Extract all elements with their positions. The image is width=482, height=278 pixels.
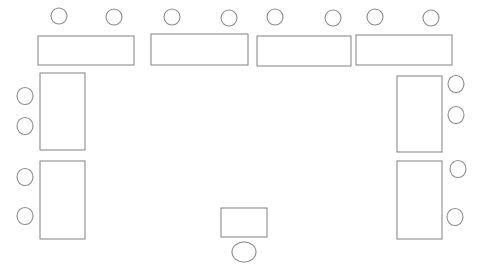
tables-group — [38, 34, 452, 239]
chair-top-1[interactable] — [51, 8, 67, 24]
top-table-2[interactable] — [151, 34, 248, 65]
top-table-1[interactable] — [38, 36, 134, 65]
left-table-upper[interactable] — [40, 73, 85, 150]
chair-right-3[interactable] — [450, 161, 466, 178]
chair-left-2[interactable] — [17, 118, 33, 135]
chair-top-8[interactable] — [423, 10, 439, 26]
chair-top-5[interactable] — [267, 9, 283, 25]
chair-left-3[interactable] — [17, 169, 33, 186]
left-table-lower[interactable] — [40, 161, 85, 239]
chair-top-6[interactable] — [325, 10, 341, 26]
chair-top-2[interactable] — [106, 9, 122, 25]
chair-top-4[interactable] — [221, 10, 237, 26]
seating-layout-diagram — [0, 0, 482, 278]
chair-top-3[interactable] — [164, 9, 180, 25]
right-table-lower[interactable] — [397, 161, 442, 239]
chair-top-7[interactable] — [367, 9, 383, 25]
bottom-center-table[interactable] — [221, 208, 267, 237]
chair-right-4[interactable] — [447, 209, 463, 226]
chair-bottom-center[interactable] — [232, 242, 256, 262]
chair-left-1[interactable] — [17, 88, 33, 105]
chair-left-4[interactable] — [17, 208, 33, 225]
top-table-3[interactable] — [257, 36, 351, 66]
top-table-4[interactable] — [356, 35, 452, 65]
chair-right-2[interactable] — [448, 107, 464, 124]
right-table-upper[interactable] — [397, 76, 442, 152]
chair-right-1[interactable] — [448, 76, 464, 93]
seating-layout-canvas — [0, 0, 482, 278]
